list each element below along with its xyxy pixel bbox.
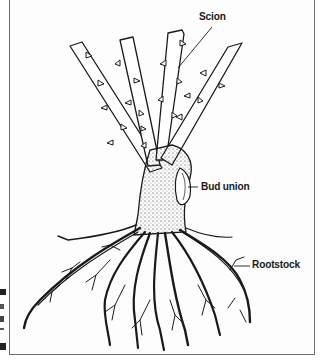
scion-label: Scion <box>199 10 226 22</box>
leader-lines <box>178 27 250 266</box>
roots <box>24 225 250 350</box>
rose-plant-illustration <box>0 0 320 360</box>
rootstock-label: Rootstock <box>252 258 300 270</box>
bud-union-label: Bud union <box>201 180 249 192</box>
